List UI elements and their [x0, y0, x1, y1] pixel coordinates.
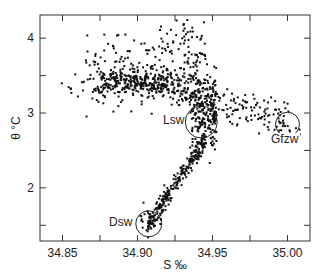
- data-point: [184, 62, 186, 64]
- data-point: [188, 166, 190, 168]
- data-point: [173, 92, 175, 94]
- data-point: [186, 19, 188, 21]
- data-point: [161, 86, 163, 88]
- data-point: [170, 197, 172, 199]
- data-point: [163, 191, 165, 193]
- data-point: [137, 71, 139, 73]
- data-point: [199, 90, 201, 92]
- data-point: [233, 100, 235, 102]
- data-point: [107, 86, 109, 88]
- data-point: [127, 57, 129, 59]
- data-point: [143, 85, 145, 87]
- data-point: [89, 78, 91, 80]
- data-point: [120, 58, 122, 60]
- data-point: [158, 74, 160, 76]
- data-point: [159, 29, 161, 31]
- data-point: [146, 229, 148, 231]
- data-point: [192, 110, 194, 112]
- data-point: [113, 77, 115, 79]
- data-point: [133, 68, 135, 70]
- data-point: [136, 85, 138, 87]
- data-point: [200, 37, 202, 39]
- plot-frame: [40, 15, 310, 241]
- scatter-points: [61, 19, 301, 238]
- data-point: [201, 145, 203, 147]
- data-point: [125, 79, 127, 81]
- data-point: [148, 96, 150, 98]
- data-point: [114, 78, 116, 80]
- data-point: [242, 108, 244, 110]
- data-point: [194, 100, 196, 102]
- data-point: [176, 102, 178, 104]
- data-point: [202, 103, 204, 105]
- data-point: [160, 206, 162, 208]
- data-point: [190, 78, 192, 80]
- data-point: [156, 219, 158, 221]
- data-point: [89, 64, 91, 66]
- data-point: [264, 118, 266, 120]
- data-point: [190, 75, 192, 77]
- data-point: [164, 48, 166, 50]
- data-point: [253, 98, 255, 100]
- y-axis-title: θ °C: [9, 116, 23, 140]
- data-point: [168, 90, 170, 92]
- data-point: [180, 79, 182, 81]
- data-point: [87, 79, 89, 81]
- data-point: [178, 85, 180, 87]
- data-point: [145, 70, 147, 72]
- data-point: [168, 92, 170, 94]
- data-point: [151, 90, 153, 92]
- data-point: [142, 88, 144, 90]
- data-point: [172, 42, 174, 44]
- data-point: [174, 69, 176, 71]
- data-point: [274, 100, 276, 102]
- data-point: [116, 74, 118, 76]
- data-point: [180, 93, 182, 95]
- data-point: [210, 121, 212, 123]
- data-point: [158, 84, 160, 86]
- data-point: [170, 29, 172, 31]
- data-point: [176, 79, 178, 81]
- data-point: [140, 215, 142, 217]
- data-point: [136, 66, 138, 68]
- data-point: [132, 68, 134, 70]
- data-point: [181, 98, 183, 100]
- data-point: [101, 91, 103, 93]
- data-point: [226, 114, 228, 116]
- data-point: [287, 103, 289, 105]
- data-point: [191, 53, 193, 55]
- data-point: [114, 66, 116, 68]
- data-point: [187, 46, 189, 48]
- data-point: [175, 176, 177, 178]
- data-point: [132, 89, 134, 91]
- data-point: [204, 98, 206, 100]
- data-point: [137, 91, 139, 93]
- data-point: [150, 68, 152, 70]
- data-point: [189, 101, 191, 103]
- data-point: [245, 118, 247, 120]
- data-point: [114, 92, 116, 94]
- data-point: [203, 118, 205, 120]
- data-point: [202, 90, 204, 92]
- data-point: [100, 71, 102, 73]
- data-point: [122, 87, 124, 89]
- data-point: [167, 46, 169, 48]
- data-point: [199, 61, 201, 63]
- data-point: [209, 86, 211, 88]
- x-tick-label: 34.85: [47, 246, 77, 260]
- data-point: [94, 64, 96, 66]
- data-point: [127, 85, 129, 87]
- data-point: [191, 170, 193, 172]
- y-tick-label: 2: [27, 181, 34, 195]
- data-point: [114, 86, 116, 88]
- data-point: [196, 54, 198, 56]
- data-point: [180, 166, 182, 168]
- data-point: [175, 178, 177, 180]
- data-point: [214, 93, 216, 95]
- data-point: [133, 81, 135, 83]
- annotation-label: Gfzw: [271, 132, 299, 146]
- data-point: [85, 59, 87, 61]
- data-point: [110, 89, 112, 91]
- data-point: [146, 64, 148, 66]
- data-point: [61, 82, 63, 84]
